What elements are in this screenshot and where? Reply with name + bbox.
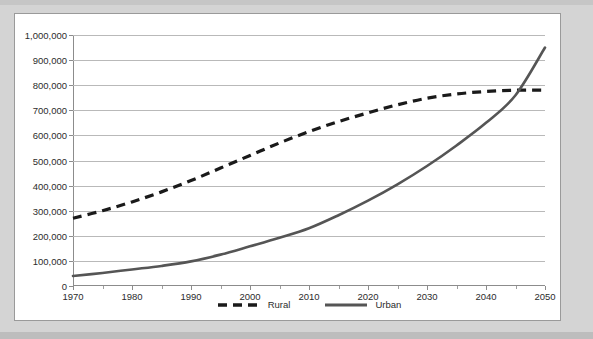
x-axis-tick bbox=[191, 286, 192, 290]
x-axis-minor-tick bbox=[103, 286, 104, 289]
x-axis-minor-tick bbox=[457, 286, 458, 289]
legend-item-rural[interactable]: Rural bbox=[217, 299, 291, 310]
plot-area: 0100,000200,000300,000400,000500,000600,… bbox=[73, 35, 545, 286]
y-axis-label: 700,000 bbox=[33, 105, 67, 116]
y-axis-label: 100,000 bbox=[33, 255, 67, 266]
x-axis-minor-tick bbox=[162, 286, 163, 289]
legend-label: Rural bbox=[268, 299, 291, 310]
x-axis-tick bbox=[250, 286, 251, 290]
series-line-urban bbox=[73, 48, 545, 276]
x-axis-tick bbox=[132, 286, 133, 290]
legend-label: Urban bbox=[375, 299, 401, 310]
x-axis-minor-tick bbox=[221, 286, 222, 289]
mat-bottom-edge bbox=[0, 332, 593, 339]
series-line-rural bbox=[73, 90, 545, 218]
legend-key-urban-icon bbox=[324, 300, 368, 310]
x-axis-tick bbox=[309, 286, 310, 290]
y-axis-label: 800,000 bbox=[33, 80, 67, 91]
chart-panel: 0100,000200,000300,000400,000500,000600,… bbox=[14, 13, 561, 321]
x-axis-minor-tick bbox=[339, 286, 340, 289]
y-axis-label: 200,000 bbox=[33, 230, 67, 241]
x-axis-minor-tick bbox=[280, 286, 281, 289]
chart-screenshot: 0100,000200,000300,000400,000500,000600,… bbox=[0, 0, 593, 339]
x-axis-minor-tick bbox=[516, 286, 517, 289]
legend-item-urban[interactable]: Urban bbox=[324, 299, 401, 310]
mat-top-edge bbox=[0, 0, 593, 5]
y-axis-label: 900,000 bbox=[33, 55, 67, 66]
x-axis-tick bbox=[427, 286, 428, 290]
x-axis-minor-tick bbox=[398, 286, 399, 289]
y-axis-label: 400,000 bbox=[33, 180, 67, 191]
y-axis-label: 600,000 bbox=[33, 130, 67, 141]
data-series bbox=[73, 35, 545, 286]
y-axis-label: 300,000 bbox=[33, 205, 67, 216]
y-axis-label: 500,000 bbox=[33, 155, 67, 166]
chart-legend: RuralUrban bbox=[73, 299, 545, 310]
legend-key-rural-icon bbox=[217, 300, 261, 310]
x-axis-tick bbox=[368, 286, 369, 290]
x-axis-tick bbox=[73, 286, 74, 290]
x-axis-tick bbox=[486, 286, 487, 290]
y-axis-label: 0 bbox=[62, 281, 67, 292]
y-axis-label: 1,000,000 bbox=[25, 30, 67, 41]
x-axis-tick bbox=[545, 286, 546, 290]
